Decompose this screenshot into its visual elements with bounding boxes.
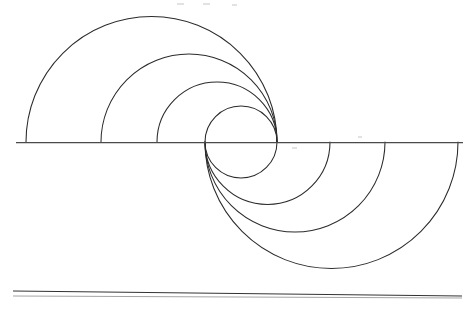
base-rule-upper xyxy=(13,291,462,296)
scan-speck xyxy=(177,3,184,5)
base-rule-lower xyxy=(13,296,462,298)
upper-arc-group xyxy=(26,17,277,143)
scan-speck-group xyxy=(177,3,362,149)
scan-speck xyxy=(232,4,237,6)
lower-arc-4 xyxy=(205,142,458,269)
lower-arc-1 xyxy=(205,142,277,178)
drawing-canvas xyxy=(0,0,475,310)
lower-arc-group xyxy=(205,142,458,269)
spiral-arc-figure xyxy=(0,0,475,310)
lower-arc-3 xyxy=(205,142,385,232)
upper-arc-3 xyxy=(157,82,277,142)
upper-arc-4 xyxy=(205,106,277,142)
scan-speck xyxy=(292,147,297,149)
upper-arc-2 xyxy=(101,54,277,142)
scan-speck xyxy=(358,136,362,138)
scan-speck xyxy=(203,3,210,5)
upper-arc-1 xyxy=(26,17,277,143)
base-rule-group xyxy=(13,291,462,298)
